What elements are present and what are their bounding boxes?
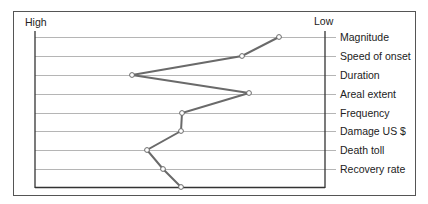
category-label-areal-extent: Areal extent [340, 88, 396, 100]
category-label-duration: Duration [340, 69, 380, 81]
category-label-magnitude: Magnitude [340, 31, 389, 43]
category-label-death-toll: Death toll [340, 144, 384, 156]
marker-areal-extent [247, 91, 252, 96]
category-label-damage: Damage US $ [340, 125, 406, 137]
marker-duration [130, 73, 135, 78]
marker-speed-of-onset [240, 54, 245, 59]
marker-recovery-rate [161, 167, 166, 172]
category-label-frequency: Frequency [340, 107, 390, 119]
low-label: Low [314, 15, 333, 27]
marker-death-toll [145, 148, 150, 153]
marker-damage [179, 129, 184, 134]
category-label-speed-of-onset: Speed of onset [340, 50, 411, 62]
high-label: High [25, 16, 47, 28]
category-label-recovery-rate: Recovery rate [340, 163, 405, 175]
marker-frequency [180, 111, 185, 116]
hazard-profile-diagram: High Low Magnitude Speed of onset Durati… [0, 0, 428, 204]
marker-magnitude [277, 35, 282, 40]
marker-bottom-endpoint [179, 185, 184, 190]
